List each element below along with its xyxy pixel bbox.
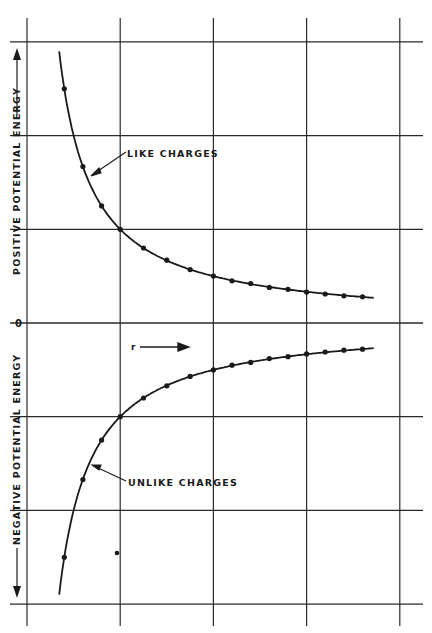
data-point [188, 374, 193, 379]
data-point [188, 267, 193, 272]
data-point [360, 347, 365, 352]
data-point [229, 278, 234, 283]
data-point [99, 438, 104, 443]
down-arrow-icon [13, 586, 21, 598]
data-point [211, 274, 216, 279]
data-point [341, 348, 346, 353]
data-point [304, 351, 309, 356]
data-point [248, 281, 253, 286]
data-point [164, 383, 169, 388]
data-point [99, 203, 104, 208]
data-point [323, 349, 328, 354]
data-point [285, 354, 290, 359]
data-point [141, 245, 146, 250]
data-point [80, 164, 85, 169]
data-point [62, 555, 67, 560]
data-point [267, 356, 272, 361]
data-point [304, 290, 309, 295]
data-point [80, 477, 85, 482]
r-direction-arrow-icon [140, 343, 189, 351]
positive-energy-label: POSITIVE POTENTIAL ENERGY [11, 87, 22, 275]
data-point [323, 291, 328, 296]
r-axis-label: r [131, 342, 137, 352]
potential-energy-chart: LIKE CHARGES UNLIKE CHARGES r 0 POSITIVE… [0, 0, 432, 633]
negative-axis-label-group: NEGATIVE POTENTIAL ENERGY [11, 354, 22, 598]
data-point [229, 363, 234, 368]
zero-label: 0 [15, 318, 23, 329]
data-point [248, 360, 253, 365]
data-point [211, 367, 216, 372]
data-point [164, 258, 169, 263]
data-point [118, 227, 123, 232]
unlike-charges-label: UNLIKE CHARGES [128, 477, 238, 488]
data-point [285, 287, 290, 292]
negative-energy-label: NEGATIVE POTENTIAL ENERGY [11, 354, 22, 545]
positive-axis-label-group: POSITIVE POTENTIAL ENERGY [11, 48, 22, 275]
unlike-charges-pointer [92, 465, 126, 481]
grid-lines [10, 18, 423, 626]
up-arrow-icon [13, 48, 21, 60]
data-point [141, 395, 146, 400]
data-point [118, 414, 123, 419]
stray-dot [115, 551, 120, 556]
data-point [267, 285, 272, 290]
data-point [341, 293, 346, 298]
data-point [62, 86, 67, 91]
like-charges-curve [59, 51, 374, 297]
like-charges-label: LIKE CHARGES [127, 148, 219, 159]
data-point [360, 294, 365, 299]
